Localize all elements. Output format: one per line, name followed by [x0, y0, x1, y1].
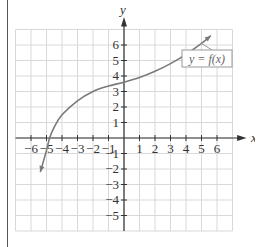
y-tick-label: 4	[113, 68, 120, 83]
y-tick-label: −2	[105, 161, 119, 176]
y-tick-label: −1	[105, 146, 119, 161]
x-tick-label: 2	[152, 141, 159, 156]
x-tick-label: 1	[136, 141, 143, 156]
x-tick-label: −6	[24, 141, 38, 156]
x-tick-label: 4	[183, 141, 190, 156]
function-label: y = f(x)	[182, 43, 232, 67]
y-axis-label: y	[118, 2, 126, 17]
x-tick-label: −3	[71, 141, 85, 156]
x-tick-label: 3	[167, 141, 174, 156]
y-axis-arrow-icon	[121, 17, 127, 26]
y-tick-label: 6	[113, 37, 120, 52]
y-tick-label: 2	[113, 99, 120, 114]
y-tick-label: −3	[105, 177, 119, 192]
label-leader-line	[202, 43, 213, 50]
y-tick-label: 5	[113, 53, 120, 68]
x-tick-label: −4	[55, 141, 69, 156]
function-label-text: y = f(x)	[188, 52, 225, 66]
x-tick-label: 6	[214, 141, 221, 156]
x-tick-label: 5	[198, 141, 205, 156]
x-axis-arrow-icon	[237, 135, 246, 141]
function-graph: xy −6−5−4−3−2−1123456−5−4−3−2−1123456 y …	[0, 0, 255, 247]
y-tick-label: −5	[105, 208, 119, 223]
x-axis-label: x	[250, 130, 255, 145]
x-tick-label: −2	[86, 141, 100, 156]
axes: xy	[16, 2, 256, 231]
y-tick-label: −4	[105, 192, 119, 207]
y-tick-label: 1	[113, 115, 120, 130]
y-tick-label: 3	[113, 84, 120, 99]
